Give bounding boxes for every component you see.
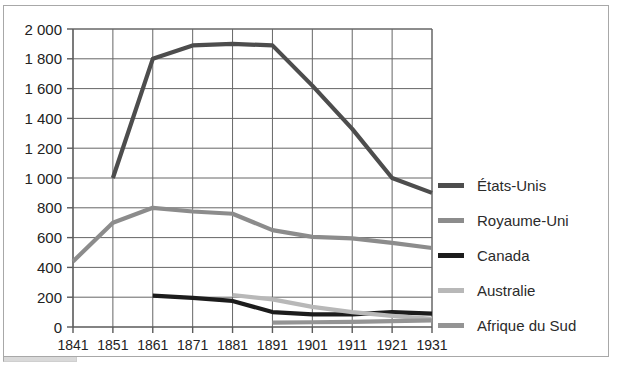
legend-item[interactable]: Afrique du Sud xyxy=(438,308,638,343)
x-axis-tick-label: 1841 xyxy=(57,337,88,353)
y-axis-tick-label: 0 xyxy=(54,319,62,336)
y-axis-tick-label: 1 000 xyxy=(24,170,62,187)
legend-color-swatch xyxy=(438,218,464,223)
y-axis-tick-label: 2 000 xyxy=(24,21,62,38)
series-line xyxy=(272,320,432,322)
x-axis-tick-label: 1881 xyxy=(217,337,248,353)
x-axis-tick-label: 1871 xyxy=(177,337,208,353)
axis-ticks xyxy=(67,29,432,333)
x-axis-tick-label: 1891 xyxy=(257,337,288,353)
figure: 02004006008001 0001 2001 4001 6001 8002 … xyxy=(0,0,644,369)
legend-item-label: États-Unis xyxy=(477,177,546,194)
y-axis-tick-label: 1 200 xyxy=(24,140,62,157)
y-axis-tick-label: 200 xyxy=(37,289,62,306)
x-axis-tick-label: 1861 xyxy=(137,337,168,353)
legend-item-label: Canada xyxy=(477,247,530,264)
x-axis-tick-label: 1901 xyxy=(297,337,328,353)
legend-item-label: Royaume-Uni xyxy=(477,212,569,229)
y-axis-tick-label: 400 xyxy=(37,259,62,276)
legend-item[interactable]: Australie xyxy=(438,273,638,308)
x-axis-tick-labels: 1841185118611871188118911901191119211931 xyxy=(57,337,447,353)
legend-color-swatch xyxy=(438,253,464,258)
legend-item[interactable]: Canada xyxy=(438,238,638,273)
data-series-lines xyxy=(73,44,432,323)
y-axis-tick-label: 600 xyxy=(37,229,62,246)
x-axis-tick-label: 1851 xyxy=(97,337,128,353)
y-axis-tick-labels: 02004006008001 0001 2001 4001 6001 8002 … xyxy=(24,21,62,336)
legend-item-label: Australie xyxy=(477,282,535,299)
legend-item[interactable]: Royaume-Uni xyxy=(438,203,638,238)
legend-color-swatch xyxy=(438,183,464,188)
y-axis-tick-label: 1 800 xyxy=(24,50,62,67)
grid-lines xyxy=(73,29,432,327)
legend-color-swatch xyxy=(438,323,464,328)
x-axis-tick-label: 1911 xyxy=(337,337,367,353)
y-axis-tick-label: 1 400 xyxy=(24,110,62,127)
y-axis-tick-label: 800 xyxy=(37,199,62,216)
chart-legend: États-UnisRoyaume-UniCanadaAustralieAfri… xyxy=(438,168,638,343)
series-line xyxy=(73,208,432,262)
x-axis-tick-label: 1921 xyxy=(377,337,408,353)
legend-item-label: Afrique du Sud xyxy=(477,317,576,334)
legend-item[interactable]: États-Unis xyxy=(438,168,638,203)
legend-color-swatch xyxy=(438,288,464,293)
y-axis-tick-label: 1 600 xyxy=(24,80,62,97)
